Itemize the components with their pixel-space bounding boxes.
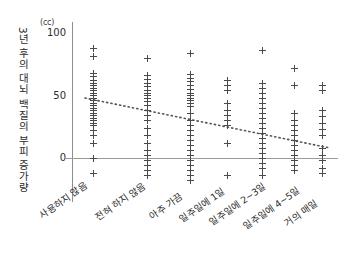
data-point-marker — [319, 145, 326, 152]
data-point-marker — [259, 172, 266, 179]
y-tick-label-100: 100 — [38, 27, 66, 38]
data-point-marker — [144, 55, 151, 62]
data-point-marker — [187, 177, 194, 184]
y-axis-unit-label: (cc) — [40, 18, 54, 27]
data-point-marker — [259, 47, 266, 54]
data-point-marker — [90, 45, 97, 52]
data-point-marker — [224, 172, 231, 179]
data-point-marker — [144, 140, 151, 147]
data-point-marker — [144, 172, 151, 179]
data-point-marker — [224, 140, 231, 147]
chart-figure: 3년 후의 대뇌 백질의 부피 증가량 (cc) 100 50 0 사용하지 않… — [0, 0, 344, 264]
data-point-marker — [224, 100, 231, 107]
data-point-marker — [319, 157, 326, 164]
y-tick-label-0: 0 — [38, 152, 66, 163]
y-axis-title: 3년 후의 대뇌 백질의 부피 증가량 — [2, 10, 28, 210]
data-point-marker — [259, 165, 266, 172]
data-point-marker — [224, 87, 231, 94]
data-point-marker — [224, 122, 231, 129]
data-point-marker — [90, 170, 97, 177]
data-point-marker — [291, 110, 298, 117]
data-point-marker — [144, 125, 151, 132]
data-point-marker — [90, 53, 97, 60]
data-point-marker — [319, 87, 326, 94]
data-point-marker — [291, 82, 298, 89]
data-point-marker — [144, 117, 151, 124]
data-point-marker — [187, 110, 194, 117]
data-point-marker — [291, 167, 298, 174]
data-point-marker — [90, 132, 97, 139]
data-point-marker — [90, 155, 97, 162]
data-point-marker — [90, 140, 97, 147]
data-point-marker — [144, 132, 151, 139]
data-point-marker — [291, 65, 298, 72]
data-point-marker — [187, 50, 194, 57]
data-point-marker — [319, 170, 326, 177]
y-tick-label-50: 50 — [38, 90, 66, 101]
data-point-marker — [319, 132, 326, 139]
